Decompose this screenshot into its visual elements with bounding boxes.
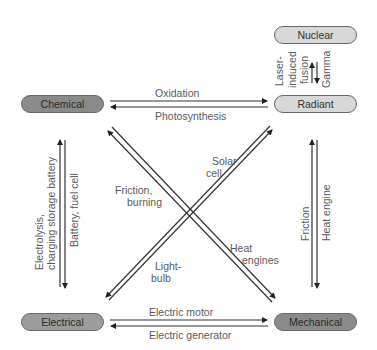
label-heat-engines-2: engines bbox=[242, 254, 279, 266]
label-solar-1: Solar bbox=[212, 155, 237, 167]
node-nuclear: Nuclear bbox=[274, 26, 357, 44]
label-battery: Battery, fuel cell bbox=[68, 173, 80, 247]
label-friction-burning-1: Friction, bbox=[115, 184, 152, 196]
label-lightbulb-2: bulb bbox=[151, 272, 171, 284]
arrow-light-bulb bbox=[106, 126, 270, 297]
node-radiant: Radiant bbox=[274, 95, 357, 113]
node-chemical-label: Chemical bbox=[41, 98, 85, 110]
label-electric-generator: Electric generator bbox=[149, 329, 231, 341]
label-laser-1: Laser- bbox=[273, 56, 285, 86]
label-electrolysis-1: Electrolysis, bbox=[33, 214, 45, 270]
node-mechanical: Mechanical bbox=[274, 313, 357, 331]
label-friction: Friction bbox=[299, 207, 311, 241]
arrow-friction-burning bbox=[108, 131, 272, 302]
label-heat-engines-1: Heat bbox=[230, 242, 252, 254]
arrow-solar-cell bbox=[109, 130, 272, 300]
label-heat-engine: Heat engine bbox=[320, 184, 332, 241]
node-mechanical-label: Mechanical bbox=[289, 316, 342, 328]
label-oxidation: Oxidation bbox=[155, 87, 199, 99]
label-solar-2: cell bbox=[206, 167, 222, 179]
label-laser-3: fusion bbox=[298, 56, 310, 84]
label-lightbulb-1: Light- bbox=[155, 260, 181, 272]
node-chemical: Chemical bbox=[21, 95, 104, 113]
label-photosynthesis: Photosynthesis bbox=[155, 110, 226, 122]
node-electrical: Electrical bbox=[21, 313, 104, 331]
label-laser-2: induced bbox=[286, 51, 298, 88]
label-electrolysis-2: charging storage battery bbox=[45, 157, 57, 270]
node-nuclear-label: Nuclear bbox=[297, 29, 333, 41]
node-radiant-label: Radiant bbox=[297, 98, 333, 110]
node-electrical-label: Electrical bbox=[41, 316, 84, 328]
label-gamma: Gamma bbox=[320, 51, 332, 88]
label-electric-motor: Electric motor bbox=[149, 306, 213, 318]
label-friction-burning-2: burning bbox=[127, 196, 162, 208]
